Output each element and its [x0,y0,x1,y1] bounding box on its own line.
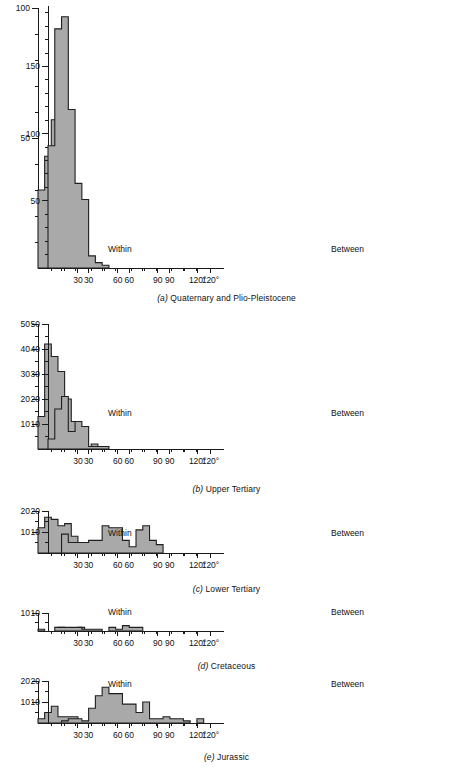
panel-a-letter: (a) [157,293,168,303]
panel-b-between-label: Between [331,408,364,418]
y-tick-label: 150 [26,61,40,71]
x-tick-label: 120° [202,560,220,570]
x-tick-label: 30 [84,730,94,740]
panel-a-caption-text: Quaternary and Plio-Pleistocene [170,293,295,303]
x-tick-label: 60 [124,456,134,466]
x-tick-label: 60 [124,275,134,285]
y-tick-label: 20 [31,506,41,516]
y-tick-label: 10 [31,608,41,618]
panel-c-caption: (c) Lower Tertiary [0,584,453,594]
histogram-bar-group [62,687,191,723]
panel-c-caption-text: Lower Tertiary [206,584,261,594]
x-tick-label: 120° [202,275,220,285]
x-tick-label: 60 [124,730,134,740]
y-tick-label: 10 [31,419,41,429]
panel-b-caption: (b) Upper Tertiary [0,484,453,494]
y-tick-label: 20 [31,676,41,686]
histogram-bar-group [55,627,102,631]
x-tick-label: 90 [165,456,175,466]
x-tick-label: 90 [165,560,175,570]
histogram-bar-group [109,626,143,631]
y-tick-label: 20 [31,394,41,404]
x-tick-label: 120° [202,456,220,466]
panel-c-within-label: Within [108,528,132,538]
panel-b-letter: (b) [193,484,204,494]
x-tick-label: 90 [165,638,175,648]
panel-e-between-label: Between [331,679,364,689]
x-tick-label: 90 [165,730,175,740]
panel-a-caption: (a) Quaternary and Plio-Pleistocene [0,293,453,303]
y-tick-label: 30 [31,369,41,379]
panel-b-within-label: Within [108,408,132,418]
x-tick-label: 30 [84,638,94,648]
panel-d-within-label: Within [108,607,132,617]
histogram-bar-group [48,17,109,268]
panel-c-between-label: Between [331,528,364,538]
panel-d-between-label: Between [331,607,364,617]
panel-a-within-label: Within [108,244,132,254]
panel-d-caption-text: Cretaceous [211,661,255,671]
panel-e-caption-text: Jurassic [217,752,249,762]
panel-d-caption: (d) Cretaceous [0,661,453,671]
y-tick-label: 50 [31,319,41,329]
x-tick-label: 30 [84,275,94,285]
y-tick-label: 100 [26,129,40,139]
panel-e-letter: (e) [204,752,215,762]
histogram-bar-group [48,397,109,450]
panel-e-caption: (e) Jurassic [0,752,453,762]
panel-c-between-chart: 1020306090120° [0,503,228,575]
panel-b-between-chart: 1020304050306090120° [0,316,228,471]
x-tick-label: 120° [202,638,220,648]
y-tick-label: 50 [31,196,41,206]
panel-d-letter: (d) [198,661,209,671]
figure-histograms-angular-dispersion: 50100306090120° 50100150306090120° Withi… [0,0,453,767]
x-tick-label: 60 [124,560,134,570]
x-tick-label: 90 [165,275,175,285]
panel-e-within-label: Within [108,679,132,689]
panel-b-caption-text: Upper Tertiary [206,484,261,494]
panel-a-between-label: Between [331,244,364,254]
y-tick-label: 10 [31,527,41,537]
x-tick-label: 60 [124,638,134,648]
x-tick-label: 30 [84,456,94,466]
y-tick-label: 10 [31,697,41,707]
x-tick-label: 30 [84,560,94,570]
panel-c-letter: (c) [193,584,203,594]
histogram-bar-group [197,719,204,723]
y-tick-label: 40 [31,344,41,354]
x-tick-label: 120° [202,730,220,740]
